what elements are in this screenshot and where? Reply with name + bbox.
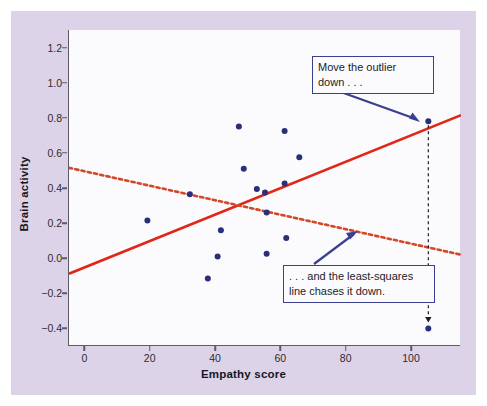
x-tick-mark — [410, 346, 412, 351]
data-point — [144, 217, 150, 223]
y-tick-mark — [62, 47, 67, 49]
y-tick-mark — [62, 187, 67, 189]
x-tick-label: 40 — [209, 352, 221, 364]
data-point — [218, 227, 224, 233]
y-tick-label: 0.6 — [47, 147, 62, 159]
data-point — [264, 251, 270, 257]
y-tick-label: −0.2 — [41, 287, 62, 299]
x-tick-label: 0 — [81, 352, 87, 364]
y-tick-label: 0.8 — [47, 112, 62, 124]
data-point — [296, 154, 302, 160]
x-tick-mark — [84, 346, 86, 351]
callout-move-outlier: Move the outlier down . . . — [312, 56, 434, 94]
x-tick-mark — [280, 346, 282, 351]
y-tick-mark — [62, 222, 67, 224]
y-tick-label: 1.0 — [47, 77, 62, 89]
y-tick-label: −0.4 — [41, 322, 62, 334]
callout-least-squares: . . . and the least-squares line chases … — [283, 265, 435, 303]
data-point — [425, 118, 431, 124]
x-tick-mark — [214, 346, 216, 351]
outlier-drop-arrowhead — [425, 317, 431, 323]
data-point — [283, 235, 289, 241]
data-point — [236, 124, 242, 130]
data-point — [282, 181, 288, 187]
data-point — [425, 325, 431, 331]
y-tick-mark — [62, 117, 67, 119]
y-tick-mark — [62, 257, 67, 259]
x-tick-label: 20 — [144, 352, 156, 364]
y-tick-label: 0.0 — [47, 252, 62, 264]
y-tick-mark — [62, 152, 67, 154]
y-axis-label: Brain activity — [18, 134, 30, 254]
data-point — [254, 186, 260, 192]
data-point — [215, 253, 221, 259]
x-axis-label: Empathy score — [0, 368, 487, 380]
figure-root: 1.21.00.80.60.40.20.0−0.2−0.4 Empathy sc… — [0, 0, 487, 406]
y-tick-mark — [62, 82, 67, 84]
y-tick-label: 0.4 — [47, 182, 62, 194]
x-tick-mark — [345, 346, 347, 351]
y-axis-ticks: 1.21.00.80.60.40.20.0−0.2−0.4 — [36, 0, 62, 406]
x-tick-label: 100 — [402, 352, 420, 364]
y-tick-mark — [62, 293, 67, 295]
data-point — [264, 210, 270, 216]
y-tick-label: 0.2 — [47, 217, 62, 229]
data-point — [205, 275, 211, 281]
x-tick-mark — [149, 346, 151, 351]
data-point — [262, 189, 268, 195]
data-point — [282, 128, 288, 134]
x-tick-label: 80 — [340, 352, 352, 364]
y-tick-mark — [62, 328, 67, 330]
data-point — [241, 166, 247, 172]
data-point — [187, 191, 193, 197]
x-tick-label: 60 — [274, 352, 286, 364]
y-tick-label: 1.2 — [47, 42, 62, 54]
